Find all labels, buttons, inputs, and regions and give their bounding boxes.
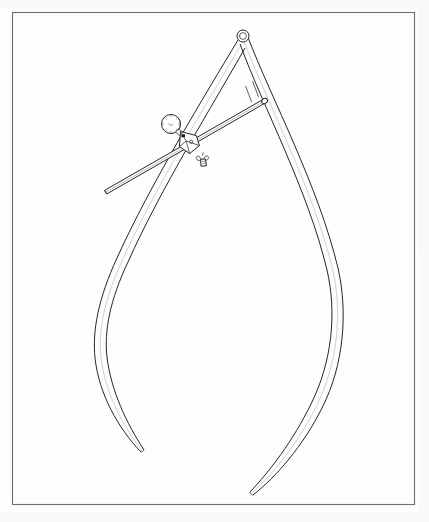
pivot-ring [237,30,249,42]
technical-drawing-canvas [0,0,429,522]
drawing-page: Technical line drawing — outside caliper… [0,0,429,522]
